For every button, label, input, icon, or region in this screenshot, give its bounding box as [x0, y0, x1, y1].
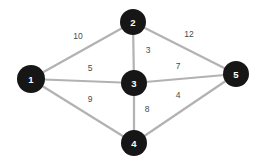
edge-3-5 — [134, 74, 236, 83]
node-3-label: 3 — [131, 78, 136, 89]
edge-weight-3-5: 7 — [176, 61, 181, 71]
node-4-label: 4 — [131, 138, 137, 149]
edge-weight-4-5: 4 — [176, 90, 181, 100]
node-2[interactable]: 2 — [120, 9, 146, 35]
edge-weight-3-4: 8 — [145, 104, 150, 114]
node-group: 1 2 3 4 5 — [17, 9, 249, 156]
edge-weight-1-2: 10 — [73, 31, 83, 41]
edge-1-4 — [31, 79, 134, 143]
edge-weight-2-5: 12 — [184, 29, 194, 39]
graph-svg-surface: 10 5 9 3 12 7 8 4 1 2 3 4 — [0, 0, 271, 166]
edge-1-3 — [31, 79, 134, 83]
edge-weight-1-4: 9 — [88, 94, 93, 104]
node-5[interactable]: 5 — [223, 61, 249, 87]
node-1[interactable]: 1 — [17, 65, 45, 93]
edge-weight-1-3: 5 — [88, 63, 93, 73]
node-3[interactable]: 3 — [121, 70, 147, 96]
graph-diagram: 10 5 9 3 12 7 8 4 1 2 3 4 — [0, 0, 271, 166]
node-2-label: 2 — [130, 17, 135, 28]
node-4[interactable]: 4 — [121, 130, 147, 156]
edge-weight-2-3: 3 — [146, 45, 151, 55]
node-5-label: 5 — [233, 69, 239, 80]
node-1-label: 1 — [28, 74, 34, 85]
